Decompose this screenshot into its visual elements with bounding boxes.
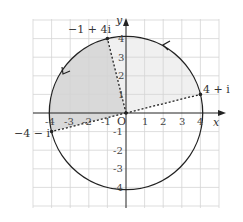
x-tick: 4 [197, 116, 203, 127]
x-axis-label: x [213, 116, 220, 129]
y-tick: 4 [118, 33, 124, 44]
x-tick: -4 [45, 116, 55, 127]
x-tick: -2 [82, 116, 92, 127]
y-tick: -2 [113, 145, 123, 156]
x-tick: 2 [160, 116, 166, 127]
y-axis-arrow-icon [123, 18, 129, 26]
y-tick: -3 [113, 163, 123, 174]
x-tick: 3 [179, 116, 185, 127]
label-(-1+4i): −1 + 4i [68, 23, 111, 36]
y-tick: 1 [118, 89, 124, 100]
y-tick: 3 [118, 52, 124, 63]
x-tick: -1 [101, 116, 111, 127]
y-tick: -1 [113, 126, 123, 137]
y-axis-label: y [115, 14, 123, 27]
y-tick: -4 [113, 182, 123, 193]
point-(-4-i) [50, 130, 54, 134]
x-tick: -3 [64, 116, 74, 127]
point-4+i [199, 93, 203, 97]
x-tick: 1 [142, 116, 148, 127]
y-tick: 2 [118, 70, 124, 81]
point-(-1+4i) [106, 37, 110, 41]
argand-diagram: 4 + i −1 + 4i −4 − i y x O -4 -3 -2 -1 1… [0, 0, 243, 222]
label-(-4-i): −4 − i [14, 127, 50, 140]
label-4+i: 4 + i [203, 83, 230, 96]
